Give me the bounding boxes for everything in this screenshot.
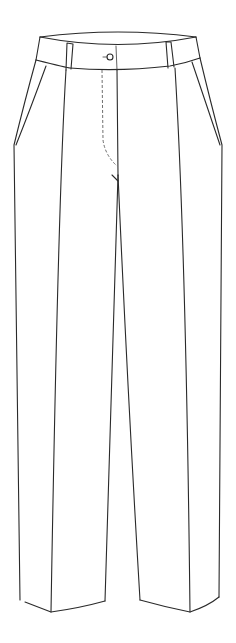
belt-loop-left: [66, 43, 73, 70]
waistband-left-edge: [36, 37, 40, 60]
right-inseam: [118, 175, 140, 600]
button-icon: [103, 54, 113, 60]
right-leg: [118, 58, 222, 612]
waistband-right-edge: [196, 37, 200, 58]
belt-loop-right: [166, 42, 174, 68]
drawing-canvas: [0, 0, 236, 643]
fly-stitching: [102, 70, 117, 166]
right-outer-seam: [200, 58, 222, 597]
left-inseam: [105, 175, 118, 601]
waistband: [36, 32, 200, 70]
waistband-top-edge: [40, 32, 196, 37]
left-hem: [25, 601, 105, 612]
waistband-inner-top: [40, 37, 196, 45]
left-leg: [14, 60, 118, 612]
trousers-illustration: [0, 0, 236, 643]
center-front-seam: [116, 46, 117, 70]
right-front-crease: [175, 68, 190, 612]
right-pocket-opening: [192, 62, 220, 145]
fly-edge: [117, 70, 118, 175]
right-hem: [140, 597, 219, 612]
left-front-crease: [51, 70, 66, 612]
crotch-point: [112, 175, 118, 181]
